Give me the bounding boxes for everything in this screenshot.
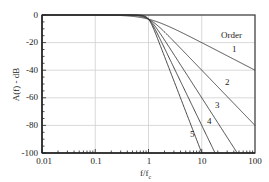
x-tick-1: 1 — [134, 157, 164, 166]
x-axis-title: f/fc — [140, 169, 151, 182]
curve-label-5: 5 — [190, 130, 195, 139]
x-tick-10: 10 — [187, 157, 217, 166]
curve-label-1: 1 — [232, 45, 237, 54]
y-tick-minus80: -80 — [10, 121, 38, 130]
x-axis-title-sub: c — [149, 174, 152, 180]
curve-label-4: 4 — [207, 117, 212, 126]
legend-title: Order — [221, 31, 242, 40]
y-axis-title: A(f) - dB — [12, 55, 21, 115]
curve-label-2: 2 — [225, 78, 230, 87]
x-tick-100: 100 — [240, 157, 269, 166]
x-axis-title-main: f/f — [140, 168, 149, 178]
chart-canvas — [0, 0, 269, 182]
curve-order-3 — [42, 15, 237, 153]
curve-order-5 — [42, 15, 202, 153]
x-tick-0.01: 0.01 — [29, 157, 59, 166]
x-tick-0.1: 0.1 — [81, 157, 111, 166]
curve-label-3: 3 — [215, 101, 220, 110]
y-tick-minus20: -20 — [10, 38, 38, 47]
y-tick-0: 0 — [10, 11, 38, 20]
